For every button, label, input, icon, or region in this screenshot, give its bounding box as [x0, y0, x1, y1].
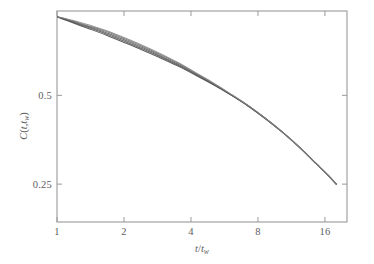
y-tick-label-0-5: 0.5 [38, 90, 52, 101]
y-axis-title: C(t,tw) [18, 112, 31, 140]
x-tick-label-1: 1 [54, 226, 59, 237]
x-tick-label-8: 8 [255, 226, 260, 237]
x-axis-title-subscript: w [204, 247, 209, 256]
data-series-line-1 [57, 17, 336, 184]
data-series-line-2 [57, 17, 336, 184]
y-axis-title-close-paren: ) [18, 112, 29, 116]
data-series-line-0 [57, 17, 336, 184]
x-tick-label-2: 2 [121, 226, 126, 237]
y-axis-title-t: t [18, 126, 29, 129]
plot-canvas [0, 0, 374, 264]
chart-figure: 124816 0.50.25 t/tw C(t,tw) [0, 0, 374, 264]
data-series-line-4 [57, 17, 336, 184]
y-axis-title-c: C [18, 133, 29, 140]
x-tick-label-4: 4 [188, 226, 193, 237]
y-tick-label-0-25: 0.25 [33, 179, 52, 190]
x-axis-title: t/tw [195, 243, 209, 256]
plot-frame-rect [57, 11, 347, 222]
data-series-line-3 [57, 17, 336, 184]
plot-frame [57, 11, 347, 222]
x-tick-label-16: 16 [319, 226, 330, 237]
y-axis-title-open-paren: ( [18, 129, 29, 133]
y-axis-ticks [57, 95, 347, 184]
y-axis-title-comma: , [18, 124, 29, 127]
x-axis-ticks [57, 11, 325, 222]
data-series-group [57, 17, 336, 184]
y-axis-title-subscript: w [22, 116, 31, 121]
y-axis-title-tw: t [18, 121, 29, 124]
